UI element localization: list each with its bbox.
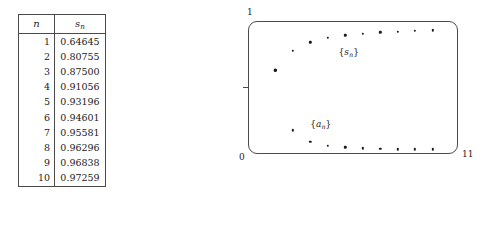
table-row: 50.93196 [19, 95, 106, 110]
column-header-sn: sn [55, 15, 106, 34]
cell-sn: 0.95581 [55, 125, 106, 140]
convergence-scatter-plot: 1 0 11 {sn}{an} [230, 4, 482, 179]
table-header-row: n sn [19, 15, 106, 34]
cell-n: 2 [19, 49, 55, 64]
y-axis-tick [243, 87, 249, 88]
cell-sn: 0.91056 [55, 80, 106, 95]
column-header-n: n [19, 15, 55, 34]
cell-n: 1 [19, 34, 55, 50]
table-row: 80.96296 [19, 140, 106, 155]
plot-frame [248, 21, 458, 154]
cell-sn: 0.96296 [55, 140, 106, 155]
cell-n: 8 [19, 140, 55, 155]
table-row: 20.80755 [19, 49, 106, 64]
table-header: n sn [19, 15, 106, 34]
origin-label: 0 [239, 152, 245, 162]
table-row: 10.64645 [19, 34, 106, 50]
cell-n: 4 [19, 80, 55, 95]
table-row: 60.94601 [19, 110, 106, 125]
partial-sums-table: n sn 10.64645 20.80755 30.87500 40.91056… [18, 14, 106, 187]
cell-sn: 0.94601 [55, 110, 106, 125]
cell-sn: 0.64645 [55, 34, 106, 50]
y-axis-max-label: 1 [247, 7, 253, 17]
cell-n: 6 [19, 110, 55, 125]
series-annotation: {an} [310, 120, 331, 131]
partial-sums-table-container: n sn 10.64645 20.80755 30.87500 40.91056… [18, 14, 106, 187]
cell-sn: 0.97259 [55, 171, 106, 187]
table-row: 70.95581 [19, 125, 106, 140]
table-row: 40.91056 [19, 80, 106, 95]
cell-n: 3 [19, 64, 55, 79]
cell-sn: 0.93196 [55, 95, 106, 110]
cell-n: 9 [19, 155, 55, 170]
table-body: 10.64645 20.80755 30.87500 40.91056 50.9… [19, 34, 106, 187]
cell-n: 10 [19, 171, 55, 187]
cell-sn: 0.80755 [55, 49, 106, 64]
table-row: 30.87500 [19, 64, 106, 79]
cell-sn: 0.87500 [55, 64, 106, 79]
cell-n: 7 [19, 125, 55, 140]
series-annotation: {sn} [339, 47, 359, 58]
x-axis-max-label: 11 [462, 149, 473, 159]
cell-n: 5 [19, 95, 55, 110]
table-row: 100.97259 [19, 171, 106, 187]
table-row: 90.96838 [19, 155, 106, 170]
cell-sn: 0.96838 [55, 155, 106, 170]
